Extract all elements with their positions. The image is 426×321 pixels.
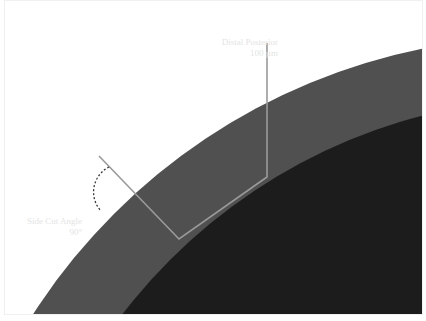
side-cut-angle-label: Side Cut Angle 90°: [4, 216, 82, 238]
distal-posterior-label: Distal Posterior 100 µm: [186, 37, 278, 59]
distal-posterior-title: Distal Posterior: [186, 37, 278, 48]
angle-arc-indicator: [94, 167, 109, 211]
side-cut-angle-value: 90°: [4, 227, 82, 238]
distal-posterior-value: 100 µm: [186, 48, 278, 59]
side-cut-angle-title: Side Cut Angle: [4, 216, 82, 227]
